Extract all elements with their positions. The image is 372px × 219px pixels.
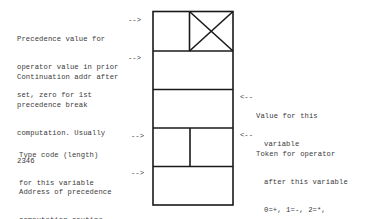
arrow-left-icon: <-- <box>240 93 253 102</box>
arrow-right-icon: --> <box>131 132 144 141</box>
label-token: Token for operator after this variable 0… <box>256 131 348 219</box>
label-line: precedence break <box>17 101 119 110</box>
label-precedence-routine: Address of precedence computation routin… <box>19 169 116 219</box>
label-line: after this variable <box>256 178 348 187</box>
label-line: Type code (length) <box>19 151 98 160</box>
label-line: Continuation addr after <box>17 73 119 82</box>
label-line: Token for operator <box>256 150 348 159</box>
label-line: Address of precedence <box>19 188 116 197</box>
arrow-left-icon: <-- <box>240 131 253 140</box>
arrow-right-icon: --> <box>128 16 141 25</box>
label-line: 0=+, 1=-, 2=*, <box>256 206 348 215</box>
label-line: Precedence value for <box>17 35 119 44</box>
arrow-right-icon: --> <box>128 54 141 63</box>
arrow-right-icon: --> <box>131 169 144 178</box>
label-line: Value for this <box>256 112 318 121</box>
label-line: computation routine. <box>19 216 116 219</box>
